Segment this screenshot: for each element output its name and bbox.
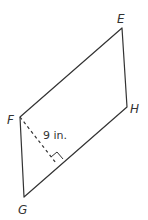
vertex-label-g: G [18, 203, 27, 217]
vertex-label-f: F [7, 113, 15, 127]
parallelogram-diagram: E H F G 9 in. [0, 0, 148, 220]
height-measure-label: 9 in. [43, 129, 67, 142]
right-angle-marker [51, 152, 63, 159]
vertex-label-e: E [117, 12, 125, 26]
parallelogram-EHGF [20, 28, 127, 197]
vertex-label-h: H [130, 102, 139, 116]
